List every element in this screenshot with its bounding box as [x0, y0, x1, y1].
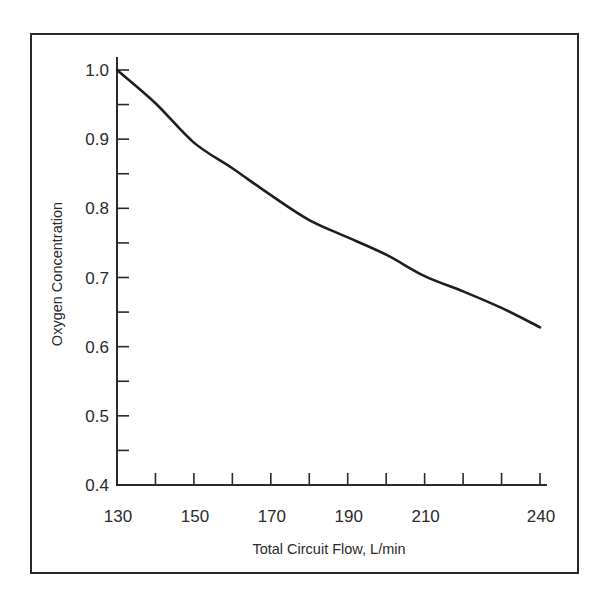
y-axis-tick-labels: 0.40.50.60.70.80.91.0 — [85, 61, 109, 495]
x-axis-tick-labels: 130150170190210240 — [104, 507, 555, 526]
x-tick-label: 130 — [104, 507, 132, 526]
axes — [116, 57, 547, 485]
x-axis-title: Total Circuit Flow, L/min — [252, 541, 405, 557]
y-tick-label: 0.6 — [85, 338, 109, 357]
x-axis-ticks — [155, 473, 540, 485]
y-tick-label: 1.0 — [85, 61, 109, 80]
y-axis-ticks — [117, 70, 129, 450]
oxygen-concentration-line — [117, 70, 540, 327]
x-tick-label: 170 — [258, 507, 286, 526]
y-tick-label: 0.7 — [85, 269, 109, 288]
x-tick-label: 240 — [527, 507, 555, 526]
y-tick-label: 0.9 — [85, 130, 109, 149]
y-tick-label: 0.4 — [85, 476, 109, 495]
line-chart: 130150170190210240 0.40.50.60.70.80.91.0… — [0, 0, 604, 596]
x-tick-label: 190 — [335, 507, 363, 526]
x-tick-label: 150 — [181, 507, 209, 526]
x-tick-label: 210 — [411, 507, 439, 526]
y-tick-label: 0.8 — [85, 199, 109, 218]
y-axis-title: Oxygen Concentration — [49, 202, 65, 346]
y-tick-label: 0.5 — [85, 407, 109, 426]
